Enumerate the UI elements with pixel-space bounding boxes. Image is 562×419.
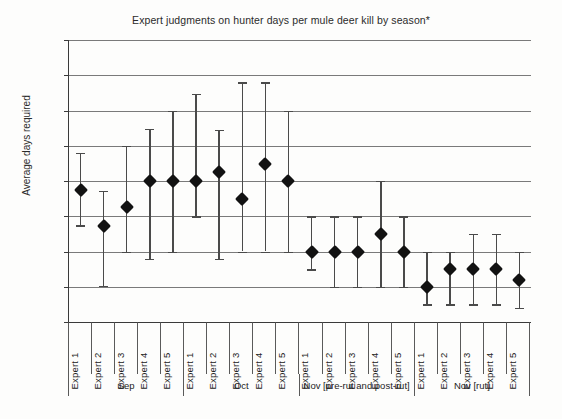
gridline-40	[69, 40, 531, 41]
expert-axis-cell: Expert 3	[345, 322, 368, 374]
error-bar-cap-lower	[515, 308, 524, 309]
season-group-label: Oct	[183, 374, 298, 396]
diamond-marker	[258, 157, 272, 171]
expert-axis-cell: Expert 4	[368, 322, 391, 374]
diamond-marker	[304, 244, 318, 258]
error-bar-line	[126, 146, 127, 252]
error-bar-cap-upper	[261, 82, 270, 83]
diamond-marker	[443, 262, 457, 276]
diamond-marker	[120, 200, 134, 214]
diamond-marker	[143, 174, 157, 188]
diamond-marker	[73, 183, 87, 197]
error-bar-cap-lower	[192, 216, 201, 217]
error-bar-cap-lower	[330, 287, 339, 288]
y-tick-mark-20	[64, 181, 69, 182]
expert-axis-cell: Expert 1	[414, 322, 437, 374]
error-bar-cap-lower	[376, 287, 385, 288]
error-bar-cap-upper	[469, 234, 478, 235]
error-bar-cap-lower	[469, 304, 478, 305]
error-bar-cap-upper	[330, 216, 339, 217]
y-tick-mark-30	[64, 111, 69, 112]
error-bar-cap-upper	[99, 191, 108, 192]
y-tick-mark-25	[64, 146, 69, 147]
error-bar-line	[242, 82, 243, 251]
error-bar-cap-upper	[446, 252, 455, 253]
error-bar-cap-upper	[353, 216, 362, 217]
error-bar-cap-lower	[238, 252, 247, 253]
gridline-35	[69, 75, 531, 76]
diamond-marker	[397, 244, 411, 258]
gridline-25	[69, 146, 531, 147]
expert-axis-cell: Expert 2	[322, 322, 345, 374]
error-bar-cap-upper	[423, 252, 432, 253]
diamond-marker	[512, 273, 526, 287]
y-tick-mark-15	[64, 216, 69, 217]
diamond-marker	[328, 244, 342, 258]
error-bar-cap-upper	[399, 216, 408, 217]
error-bar-cap-lower	[353, 287, 362, 288]
error-bar-cap-lower	[145, 259, 154, 260]
diamond-marker	[235, 192, 249, 206]
season-group-row: SepOctNov [pre-rut and post-rut]Nov [rut…	[68, 374, 530, 396]
plot-area: 4035302520151050	[68, 40, 530, 322]
gridline-20	[69, 181, 531, 182]
diamond-marker	[420, 280, 434, 294]
diamond-marker	[351, 244, 365, 258]
error-bar-cap-lower	[307, 269, 316, 270]
expert-axis-cell: Expert 1	[68, 322, 91, 374]
error-bar-cap-lower	[122, 252, 131, 253]
diamond-marker	[374, 227, 388, 241]
season-group-label: Nov [pre-rut and post-rut]	[299, 374, 414, 396]
error-bar-cap-upper	[238, 82, 247, 83]
diamond-marker	[281, 174, 295, 188]
gridline-15	[69, 216, 531, 217]
error-bar-cap-lower	[423, 304, 432, 305]
diamond-marker	[489, 262, 503, 276]
expert-axis-cell: Expert 5	[275, 322, 298, 374]
diamond-marker	[466, 262, 480, 276]
diamond-marker	[212, 165, 226, 179]
diamond-marker	[189, 174, 203, 188]
error-bar-cap-lower	[399, 287, 408, 288]
error-bar-cap-upper	[307, 216, 316, 217]
plot-surface: 4035302520151050	[69, 40, 530, 322]
expert-axis-cell: Expert 5	[506, 322, 530, 374]
error-bar-line	[195, 94, 196, 217]
expert-axis-cell: Expert 2	[206, 322, 229, 374]
expert-axis-cell: Expert 4	[483, 322, 506, 374]
error-bar-cap-lower	[76, 225, 85, 226]
expert-axis-cell: Expert 3	[114, 322, 137, 374]
expert-axis-cell: Expert 2	[91, 322, 114, 374]
error-bar-cap-upper	[76, 153, 85, 154]
error-bar-cap-upper	[122, 146, 131, 147]
error-bar-cap-lower	[492, 304, 501, 305]
y-tick-mark-35	[64, 75, 69, 76]
error-bar-cap-lower	[99, 286, 108, 287]
error-bar-line	[218, 130, 219, 259]
error-bar-cap-upper	[168, 111, 177, 112]
error-bar-cap-upper	[192, 94, 201, 95]
error-bar-line	[426, 252, 427, 305]
gridline-5	[69, 287, 531, 288]
expert-label-row: Expert 1Expert 2Expert 3Expert 4Expert 5…	[68, 322, 530, 374]
season-group-label: Nov [rut]	[414, 374, 530, 396]
chart-page: Expert judgments on hunter days per mule…	[0, 0, 562, 419]
error-bar-line	[103, 191, 104, 286]
y-tick-mark-5	[64, 287, 69, 288]
chart-title: Expert judgments on hunter days per mule…	[0, 14, 562, 26]
error-bar-cap-upper	[376, 181, 385, 182]
expert-axis-cell: Expert 1	[183, 322, 206, 374]
expert-axis-cell: Expert 2	[437, 322, 460, 374]
expert-axis-cell: Expert 3	[460, 322, 483, 374]
y-tick-mark-40	[64, 40, 69, 41]
y-axis-title: Average days required	[21, 76, 32, 216]
error-bar-cap-lower	[284, 252, 293, 253]
diamond-marker	[166, 174, 180, 188]
error-bar-cap-lower	[261, 252, 270, 253]
gridline-10	[69, 252, 531, 253]
error-bar-line	[449, 252, 450, 305]
expert-axis-cell: Expert 1	[298, 322, 321, 374]
diamond-marker	[97, 219, 111, 233]
error-bar-cap-lower	[168, 252, 177, 253]
error-bar-cap-upper	[215, 130, 224, 131]
